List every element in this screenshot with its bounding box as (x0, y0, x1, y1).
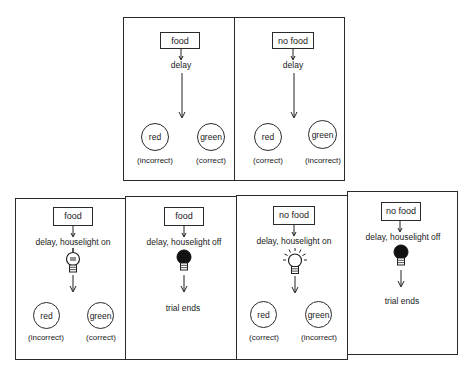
lightbulb-radiating-icon (281, 246, 309, 276)
step-label: delay (171, 60, 191, 70)
bottom-panel-food-light-on: food delay, houselight on red (incorrect… (15, 198, 126, 360)
stimulus-box: food (164, 207, 204, 226)
step-label: delay (283, 60, 303, 70)
choice-green: green (87, 302, 114, 329)
step-label: delay, houselight off (366, 232, 441, 242)
arrow-down-icon (179, 73, 185, 119)
trial-end-label: trial ends (385, 296, 420, 306)
trial-end-label: trial ends (166, 303, 201, 313)
choice-red: red (250, 301, 277, 328)
arrow-down-icon (181, 275, 187, 293)
step-label: delay, houselight on (36, 237, 111, 247)
choice-green: green (305, 301, 332, 328)
choice-green: green (308, 120, 337, 149)
arrow-down-icon (70, 275, 76, 293)
lightbulb-on-icon (64, 248, 82, 274)
choice-red: red (254, 123, 282, 151)
stimulus-box: no food (273, 206, 315, 225)
bottom-panel-no-food-light-on: no food delay, houselight on red (correc… (236, 195, 348, 360)
choice-outcome: (incorrect) (137, 156, 173, 165)
choice-outcome: (incorrect) (301, 333, 337, 342)
bottom-panel-food-light-off: food delay, houselight off trial ends (125, 196, 237, 360)
choice-outcome: (incorrect) (28, 333, 64, 342)
choice-outcome: (incorrect) (305, 156, 341, 165)
lightbulb-off-icon (175, 249, 193, 273)
choice-green: green (197, 123, 225, 151)
arrow-down-icon (398, 270, 404, 288)
choice-outcome: (correct) (249, 333, 279, 342)
step-label: delay, houselight off (147, 237, 222, 247)
arrow-down-icon (292, 276, 298, 294)
top-panel-food: food delay red (incorrect) green (correc… (123, 17, 235, 181)
stimulus-box: no food (381, 202, 421, 221)
choice-outcome: (correct) (196, 156, 226, 165)
step-label: delay, houselight on (257, 236, 332, 246)
bottom-panel-no-food-light-off: no food delay, houselight off trial ends (347, 191, 458, 355)
choice-outcome: (correct) (86, 333, 116, 342)
stimulus-box: no food (272, 32, 314, 49)
arrow-down-icon (291, 73, 297, 119)
choice-red: red (141, 123, 169, 151)
top-panel-no-food: no food delay red (correct) green (incor… (234, 17, 345, 181)
choice-red: red (33, 302, 60, 329)
lightbulb-off-icon (392, 244, 410, 268)
stimulus-box: food (53, 207, 93, 226)
stimulus-box: food (160, 32, 200, 49)
choice-outcome: (correct) (253, 156, 283, 165)
